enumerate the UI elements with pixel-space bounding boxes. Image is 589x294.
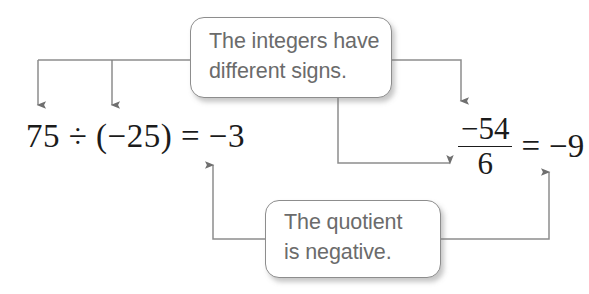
callout-integers-different-signs: The integers have different signs. [190, 17, 392, 98]
equals-sign: = [521, 128, 540, 165]
connector-signs-to-denominator [338, 98, 450, 163]
fraction-denominator: 6 [477, 147, 493, 180]
callout-quotient-is-negative: The quotient is negative. [265, 200, 441, 278]
fraction-result: −9 [549, 128, 584, 165]
callout-quotient-line-2: is negative. [284, 238, 424, 268]
fraction-numerator: −54 [458, 113, 512, 146]
callout-signs-line-2: different signs. [209, 57, 375, 87]
expression-division-inline: 75 ÷ (−25) = −3 [26, 118, 245, 155]
expression-division-fraction: −54 6 = −9 [458, 113, 584, 180]
fraction: −54 6 [458, 113, 512, 180]
callout-signs-line-1: The integers have [209, 27, 375, 57]
integer-division-diagram: The integers have different signs. The q… [0, 0, 589, 294]
connector-quotient-to-left-result [213, 165, 265, 239]
connector-quotient-to-right-result [441, 172, 549, 239]
callout-quotient-line-1: The quotient [284, 208, 424, 238]
connector-signs-to-numerator [392, 60, 461, 101]
